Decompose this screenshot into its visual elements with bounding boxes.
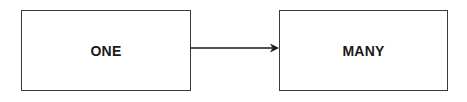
node-many: MANY [279,10,448,91]
node-many-label: MANY [342,43,384,59]
